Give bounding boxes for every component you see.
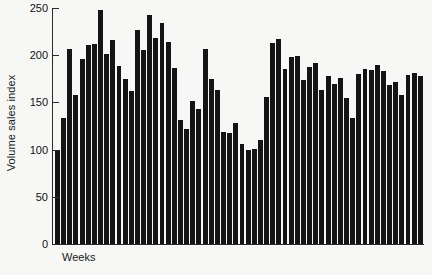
bar: [381, 71, 386, 244]
bar: [270, 43, 275, 244]
bar: [221, 132, 226, 244]
bar: [332, 84, 337, 244]
y-axis-tick-labels: 050100150200250: [18, 0, 48, 275]
bar: [252, 149, 257, 244]
y-axis-line: [52, 8, 53, 245]
bar: [369, 70, 374, 244]
bar: [258, 140, 263, 244]
bar: [141, 50, 146, 244]
bar: [363, 69, 368, 244]
bar: [412, 73, 417, 244]
y-axis-tick-0: 0: [42, 238, 48, 250]
bar: [406, 75, 411, 244]
bar: [178, 120, 183, 244]
y-axis-tickmark-150: [53, 102, 59, 103]
bar: [135, 30, 140, 244]
y-axis-tick-200: 200: [30, 49, 48, 61]
y-axis-tick-50: 50: [36, 191, 48, 203]
bar: [307, 67, 312, 244]
bar: [319, 90, 324, 244]
bar: [184, 129, 189, 244]
y-axis-tickmark-250: [53, 8, 59, 9]
bar: [209, 79, 214, 244]
bar: [203, 49, 208, 244]
bar: [289, 57, 294, 244]
bar: [166, 42, 171, 244]
bar: [196, 109, 201, 244]
y-axis-tickmark-0: [53, 244, 59, 245]
bar: [61, 118, 66, 244]
bar: [227, 133, 232, 244]
y-axis-tick-250: 250: [30, 2, 48, 14]
bar: [80, 59, 85, 244]
bar: [73, 95, 78, 244]
bar-series: [55, 8, 424, 245]
chart-figure: Volume sales index 050100150200250 Weeks: [0, 0, 432, 275]
bar: [160, 23, 165, 244]
bar: [86, 45, 91, 244]
bar: [301, 80, 306, 244]
bar: [313, 63, 318, 244]
bar: [276, 39, 281, 244]
bar: [375, 65, 380, 244]
bar: [295, 56, 300, 244]
bar: [344, 98, 349, 244]
bar: [215, 90, 220, 244]
bar: [123, 79, 128, 244]
x-axis-label: Weeks: [62, 251, 95, 263]
y-axis-label-text: Volume sales index: [5, 74, 17, 171]
bar: [240, 144, 245, 244]
bar: [110, 40, 115, 244]
bar: [98, 10, 103, 244]
y-axis-tick-100: 100: [30, 144, 48, 156]
bar: [147, 15, 152, 244]
y-axis-tick-150: 150: [30, 96, 48, 108]
bar: [246, 150, 251, 244]
y-axis-tickmark-50: [53, 197, 59, 198]
bar: [117, 66, 122, 244]
bar: [92, 44, 97, 244]
bar: [67, 49, 72, 244]
bar: [356, 74, 361, 244]
bar: [129, 91, 134, 244]
bar: [393, 82, 398, 244]
bar: [172, 68, 177, 244]
plot-area: [52, 8, 424, 245]
y-axis-tickmark-100: [53, 150, 59, 151]
bar: [418, 76, 423, 244]
bar: [326, 76, 331, 244]
bar: [104, 54, 109, 244]
bar: [153, 38, 158, 244]
y-axis-tickmark-200: [53, 55, 59, 56]
bar: [338, 78, 343, 244]
bar: [264, 97, 269, 244]
bar: [387, 85, 392, 244]
bar: [190, 101, 195, 244]
bar: [350, 118, 355, 244]
bar: [399, 95, 404, 244]
bar: [283, 69, 288, 244]
bar: [233, 123, 238, 244]
